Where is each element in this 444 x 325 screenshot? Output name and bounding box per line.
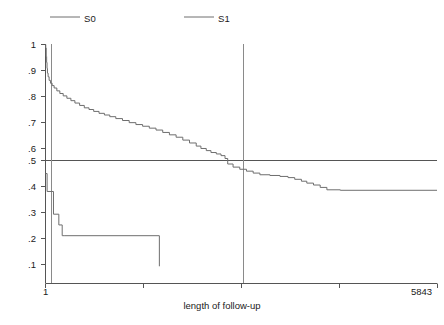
- x-tick-label-max: 5843: [411, 286, 432, 297]
- y-tick-label-0-5: .5: [14, 155, 36, 166]
- y-tick-marks: [41, 45, 46, 265]
- y-tick-label-0-3: .3: [14, 207, 36, 218]
- axis-group: [46, 44, 438, 284]
- y-tick-label-0-4: .4: [14, 181, 36, 192]
- y-tick-label-0-9: .9: [14, 65, 36, 76]
- series-line-s1: [46, 45, 438, 191]
- y-tick-label-0-6: .6: [14, 143, 36, 154]
- y-tick-label-1: 1: [14, 39, 36, 50]
- chart-canvas: [0, 0, 444, 325]
- y-tick-label-0-2: .2: [14, 233, 36, 244]
- y-tick-label-0-8: .8: [14, 91, 36, 102]
- x-tick-label-min: 1: [43, 286, 48, 297]
- series-line-s0: [46, 174, 160, 267]
- legend-label-s0: S0: [84, 13, 96, 24]
- y-tick-label-0-1: .1: [14, 259, 36, 270]
- survival-chart: S0 S1 1 .9 .8 .7 .6 .5 .4 .3 .2 .1 1 584…: [0, 0, 444, 325]
- x-tick-marks: [46, 284, 438, 289]
- legend-label-s1: S1: [218, 13, 230, 24]
- y-tick-label-0-7: .7: [14, 117, 36, 128]
- x-axis-title: length of follow-up: [0, 300, 444, 311]
